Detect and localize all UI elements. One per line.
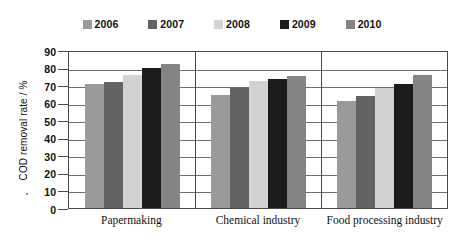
x-axis-category-labels: PapermakingChemical industryFood process… — [68, 214, 448, 236]
plot-area — [68, 51, 448, 209]
bar-2008-papermaking[interactable] — [123, 75, 142, 208]
y-tick-mark — [58, 139, 68, 140]
y-tick-mark — [58, 104, 68, 105]
bar-2008-chemical-industry[interactable] — [249, 81, 268, 208]
legend-label: 2010 — [358, 19, 382, 30]
y-tick-mark — [58, 121, 68, 122]
legend-label: 2007 — [160, 19, 184, 30]
legend-label: 2008 — [226, 19, 250, 30]
bar-2007-food-processing-industry[interactable] — [356, 96, 375, 208]
bar-2008-food-processing-industry[interactable] — [375, 88, 394, 208]
y-axis-title-label: COD removal rate / % — [19, 80, 30, 180]
legend-label: 2009 — [292, 19, 316, 30]
bar-group-food-processing-industry — [321, 52, 447, 208]
bar-2010-chemical-industry[interactable] — [287, 76, 306, 208]
bar-2009-food-processing-industry[interactable] — [394, 84, 413, 208]
y-tick-label: 90 — [44, 46, 56, 57]
bar-2010-papermaking[interactable] — [161, 64, 180, 208]
y-tick-mark — [58, 191, 68, 192]
legend-label: 2006 — [95, 19, 119, 30]
bar-2009-papermaking[interactable] — [142, 68, 161, 208]
bar-2006-food-processing-industry[interactable] — [337, 101, 356, 208]
bar-2006-papermaking[interactable] — [85, 84, 104, 208]
bar-2006-chemical-industry[interactable] — [211, 95, 230, 208]
legend-swatch-icon — [214, 20, 223, 29]
y-tick-label: 80 — [44, 64, 56, 75]
legend-swatch-icon — [148, 20, 157, 29]
legend-item-2010[interactable]: 2010 — [346, 19, 382, 30]
y-tick-label: 50 — [44, 116, 56, 127]
y-tick-mark — [58, 174, 68, 175]
legend-swatch-icon — [346, 20, 355, 29]
legend-item-2007[interactable]: 2007 — [148, 19, 184, 30]
bar-2007-chemical-industry[interactable] — [230, 88, 249, 208]
y-axis-title: COD removal rate / % — [16, 52, 32, 208]
decorative-speck — [26, 193, 28, 195]
legend-swatch-icon — [83, 20, 92, 29]
bar-groups — [69, 52, 447, 208]
y-axis-tick-labels: 9080706050403020100 — [33, 51, 56, 209]
y-tick-label: 0 — [50, 204, 56, 215]
y-tick-mark — [58, 51, 68, 52]
bar-group-papermaking — [69, 52, 195, 208]
category-label: Papermaking — [68, 214, 195, 236]
y-tick-mark — [58, 69, 68, 70]
legend-swatch-icon — [280, 20, 289, 29]
y-tick-label: 30 — [44, 152, 56, 163]
y-tick-mark — [58, 209, 68, 210]
chart-legend: 20062007200820092010 — [0, 14, 464, 34]
legend-item-2006[interactable]: 2006 — [83, 19, 119, 30]
y-tick-label: 70 — [44, 81, 56, 92]
y-tick-label: 40 — [44, 134, 56, 145]
y-axis-tick-marks — [58, 51, 68, 209]
y-tick-label: 60 — [44, 99, 56, 110]
bar-group-chemical-industry — [195, 52, 321, 208]
legend-item-2008[interactable]: 2008 — [214, 19, 250, 30]
bar-2010-food-processing-industry[interactable] — [413, 75, 432, 208]
bar-chart: 20062007200820092010 COD removal rate / … — [0, 0, 464, 244]
category-label: Food processing industry — [321, 214, 448, 236]
bar-2009-chemical-industry[interactable] — [268, 79, 287, 208]
bar-2007-papermaking[interactable] — [104, 82, 123, 208]
legend-item-2009[interactable]: 2009 — [280, 19, 316, 30]
category-label: Chemical industry — [195, 214, 322, 236]
y-tick-mark — [58, 156, 68, 157]
y-tick-label: 10 — [44, 187, 56, 198]
y-tick-label: 20 — [44, 169, 56, 180]
y-tick-mark — [58, 86, 68, 87]
